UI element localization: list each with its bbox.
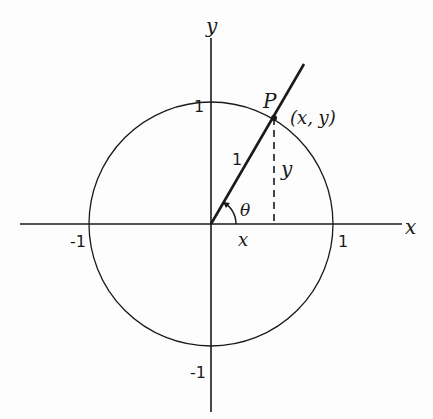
unit-circle-diagram: y x 1 -1 1 -1 P (x, y) 1 y x θ bbox=[0, 0, 433, 419]
point-coords-label: (x, y) bbox=[290, 107, 336, 128]
tick-x-pos: 1 bbox=[338, 232, 348, 251]
point-p-label: P bbox=[262, 89, 277, 113]
point-p-dot bbox=[271, 115, 277, 121]
tick-y-neg: -1 bbox=[190, 363, 206, 382]
tick-y-pos: 1 bbox=[194, 97, 204, 116]
diagram-svg: y x 1 -1 1 -1 P (x, y) 1 y x θ bbox=[0, 0, 433, 419]
horizontal-segment-label: x bbox=[238, 229, 248, 250]
x-axis-label: x bbox=[405, 215, 416, 239]
angle-theta-label: θ bbox=[240, 200, 250, 220]
tick-x-neg: -1 bbox=[70, 232, 86, 251]
vertical-segment-label: y bbox=[280, 157, 293, 181]
terminal-ray bbox=[211, 64, 304, 224]
radius-label: 1 bbox=[232, 150, 242, 169]
y-axis-label: y bbox=[205, 14, 218, 38]
